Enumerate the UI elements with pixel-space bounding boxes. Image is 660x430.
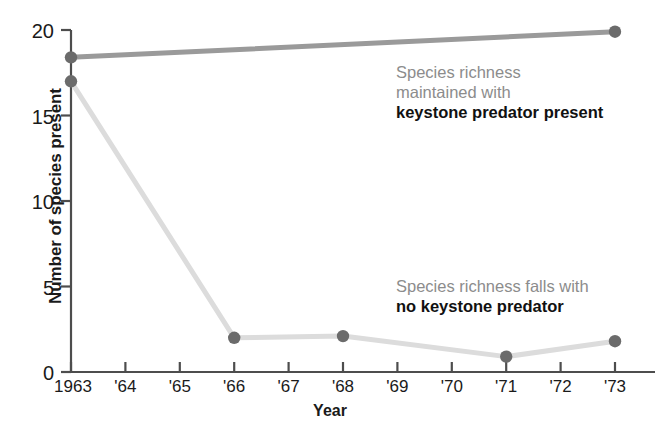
annotation-bottom-line-1: Species richness falls with [396,276,589,296]
x-tick-label-64: '64 [114,377,136,396]
data-point-marker [65,51,77,63]
x-tick-group: 1963 '64 '65 '66 '67 '68 '69 '70 '71 '72… [54,362,626,396]
data-point-marker [337,330,349,342]
y-tick-label-20: 20 [32,20,54,42]
x-axis-title: Year [0,402,660,420]
x-tick-label-66: '66 [223,377,245,396]
annotation-top-line-2: maintained with [396,82,603,102]
annotation-no-keystone: Species richness falls with no keystone … [396,276,589,316]
annotation-top-line-1: Species richness [396,62,603,82]
species-richness-chart: 20 15 10 5 0 1963 '64 '65 '66 '67 '68 '6 [0,0,660,430]
y-axis-title: Number of species present [46,46,66,346]
x-tick-label-1963: 1963 [54,377,92,396]
y-tick-label-0: 0 [43,362,54,384]
x-tick-label-70: '70 [441,377,463,396]
x-tick-label-71: '71 [495,377,517,396]
data-point-marker [609,335,621,347]
data-point-marker [609,26,621,38]
x-tick-label-68: '68 [332,377,354,396]
annotation-keystone-present: Species richness maintained with keyston… [396,62,603,122]
x-tick-label-69: '69 [386,377,408,396]
x-tick-label-67: '67 [278,377,300,396]
series-line [71,32,615,58]
data-point-marker [500,350,512,362]
data-point-marker [65,75,77,87]
x-tick-label-72: '72 [550,377,572,396]
series-keystone-present [65,26,621,64]
x-tick-label-65: '65 [169,377,191,396]
annotation-top-emphasis: keystone predator present [396,102,603,122]
data-point-marker [228,332,240,344]
annotation-bottom-emphasis: no keystone predator [396,296,589,316]
x-tick-label-73: '73 [604,377,626,396]
